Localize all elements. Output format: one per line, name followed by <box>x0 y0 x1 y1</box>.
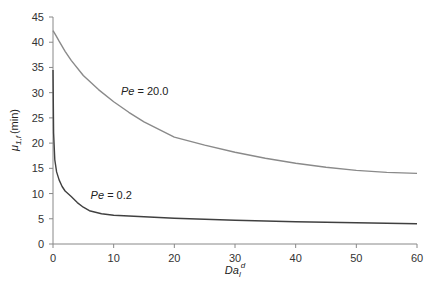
x-tick-label: 60 <box>411 252 423 264</box>
line-chart: 051015202530354045 0102030405060 Pe = 20… <box>0 0 439 295</box>
curve-annotations: Pe = 20.0Pe = 0.2 <box>91 85 169 200</box>
y-tick-label: 20 <box>32 137 44 149</box>
x-tick-label: 20 <box>168 252 180 264</box>
y-axis-title: μ1,f(min) <box>8 109 23 152</box>
y-tick-label: 45 <box>32 11 44 23</box>
series-line-pe-0-2 <box>53 70 417 224</box>
series-line-pe-20 <box>53 31 417 174</box>
x-tick-label: 30 <box>229 252 241 264</box>
y-tick-label: 0 <box>38 238 44 250</box>
y-tick-label: 25 <box>32 112 44 124</box>
y-tick-label: 35 <box>32 61 44 73</box>
y-tick-label: 15 <box>32 162 44 174</box>
y-axis-ticks: 051015202530354045 <box>32 11 53 250</box>
x-axis-ticks: 0102030405060 <box>50 244 423 264</box>
x-tick-label: 10 <box>108 252 120 264</box>
y-tick-label: 10 <box>32 188 44 200</box>
annotation-pe-0-2: Pe = 0.2 <box>91 189 132 201</box>
y-tick-label: 5 <box>38 213 44 225</box>
annotation-pe-20: Pe = 20.0 <box>121 85 168 97</box>
x-tick-label: 40 <box>290 252 302 264</box>
x-tick-label: 0 <box>50 252 56 264</box>
y-tick-label: 30 <box>32 87 44 99</box>
x-axis-title: Dald <box>225 261 246 279</box>
y-tick-label: 40 <box>32 36 44 48</box>
x-tick-label: 50 <box>350 252 362 264</box>
